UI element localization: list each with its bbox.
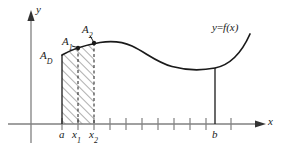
y-axis-label: y — [36, 4, 41, 15]
area-label-a2-base: A — [82, 23, 89, 35]
x-mark-label-x2: x2 — [89, 129, 98, 143]
x-mark-label-x1: x1 — [72, 129, 81, 143]
curve-label-arg: (x) — [226, 21, 238, 33]
area-label-ad-base: A — [40, 49, 47, 61]
area-label-a2: A2 — [82, 24, 93, 38]
curve-label: y=f(x) — [212, 22, 238, 33]
y-axis-arrow-icon — [27, 10, 34, 21]
point-x1-dot — [76, 46, 80, 50]
area-label-a1: A1 — [62, 36, 73, 50]
area-label-ad: AD — [40, 50, 52, 64]
x-mark-label-b: b — [212, 129, 218, 140]
area-label-a2-sub: 2 — [89, 31, 93, 40]
figure-root: y x AD A1 A2 y=f(x) a x1 x2 b — [0, 0, 285, 155]
x-mark-label-a: a — [59, 129, 65, 140]
figure-svg — [0, 0, 285, 155]
y-axis — [27, 10, 34, 143]
x-mark-label-x1-sub: 1 — [77, 136, 81, 145]
area-label-ad-sub: D — [47, 57, 53, 66]
x-axis-label: x — [268, 116, 273, 127]
x-axis-arrow-icon — [255, 121, 266, 128]
x-axis — [8, 121, 266, 128]
x-mark-label-x2-sub: 2 — [94, 136, 98, 145]
area-label-a1-sub: 1 — [69, 43, 73, 52]
point-x2-dot — [92, 41, 96, 45]
area-label-a1-base: A — [62, 35, 69, 47]
